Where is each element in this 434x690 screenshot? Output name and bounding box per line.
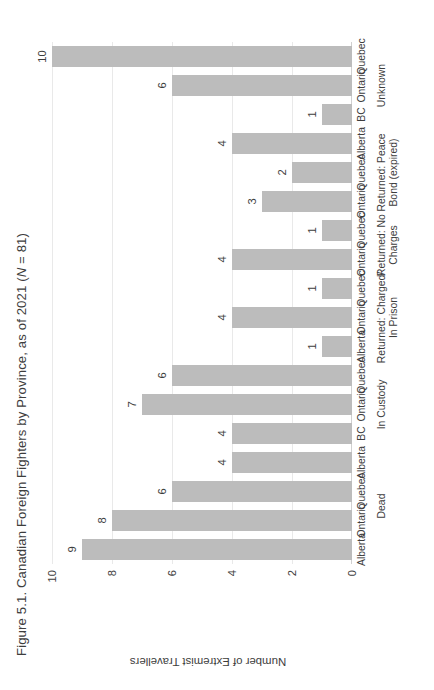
bar-slot: 8 [52, 506, 352, 535]
bar-slot: 1 [52, 274, 352, 303]
figure-title-part-2: = 81) [14, 233, 29, 268]
bar-slot: 1 [52, 216, 352, 245]
group-label-line: Dead [376, 440, 388, 572]
bar-value-label: 1 [306, 227, 318, 233]
figure-rotation-stage: Figure 5.1. Canadian Foreign Fighters by… [0, 0, 434, 690]
bar-value-label: 1 [306, 285, 318, 291]
y-axis-ticks: 0246810 [52, 564, 352, 598]
bar[interactable] [172, 365, 352, 386]
bar-value-label: 8 [96, 517, 108, 523]
bar-slot: 4 [52, 245, 352, 274]
bar[interactable] [262, 191, 352, 212]
bar-slot: 9 [52, 535, 352, 564]
bar-value-label: 6 [156, 372, 168, 378]
y-tick-label: 0 [346, 570, 358, 576]
bar[interactable] [232, 452, 352, 473]
bar-value-label: 1 [306, 343, 318, 349]
figure-title-part-1: Figure 5.1. Canadian Foreign Fighters by… [14, 277, 29, 656]
category-label: Alberta [356, 533, 367, 566]
bar-value-label: 3 [246, 198, 258, 204]
plot-area: Number of Extremist Travellers 0246810 9… [52, 42, 352, 598]
bar[interactable] [292, 162, 352, 183]
bar[interactable] [172, 75, 352, 96]
bar-value-label: 4 [216, 314, 228, 320]
bar[interactable] [82, 539, 352, 560]
figure-title: Figure 5.1. Canadian Foreign Fighters by… [14, 233, 29, 656]
group-tick-labels: DeadIn CustodyReturned: Charged/In Priso… [376, 42, 420, 564]
bar-slot: 6 [52, 477, 352, 506]
bar[interactable] [322, 104, 352, 125]
bar-value-label: 9 [66, 546, 78, 552]
figure-title-italic-n: N [14, 268, 29, 278]
y-tick-label: 6 [166, 570, 178, 576]
bar[interactable] [232, 133, 352, 154]
bar[interactable] [322, 220, 352, 241]
bar-slot: 3 [52, 187, 352, 216]
y-tick-label: 10 [46, 570, 58, 582]
bar-value-label: 4 [216, 459, 228, 465]
bar-value-label: 2 [276, 169, 288, 175]
bar-value-label: 6 [156, 82, 168, 88]
category-label: BC [356, 426, 367, 440]
bar-slot: 4 [52, 448, 352, 477]
y-tick-label: 8 [106, 570, 118, 576]
bar-value-label: 6 [156, 488, 168, 494]
bar-slot: 2 [52, 158, 352, 187]
bar-value-label: 4 [216, 140, 228, 146]
bar-slot: 1 [52, 332, 352, 361]
bar[interactable] [322, 278, 352, 299]
y-axis-label: Number of Extremist Travellers [88, 656, 328, 668]
group-label: Dead [376, 440, 388, 572]
category-label: Alberta [356, 446, 367, 479]
bar[interactable] [232, 307, 352, 328]
bar-slot: 4 [52, 129, 352, 158]
bar-slot: 4 [52, 303, 352, 332]
bar[interactable] [172, 481, 352, 502]
bar-chart-figure: Figure 5.1. Canadian Foreign Fighters by… [0, 0, 434, 690]
bar-value-label: 4 [216, 430, 228, 436]
bar[interactable] [112, 510, 352, 531]
bar[interactable] [52, 46, 352, 67]
bar-slot: 7 [52, 390, 352, 419]
y-tick-label: 4 [226, 570, 238, 576]
bar[interactable] [232, 249, 352, 270]
bar-slot: 1 [52, 100, 352, 129]
group-label: Unknown [376, 34, 388, 137]
category-tick-labels: AlbertaOntarioQuebecAlbertaBCOntarioQueb… [356, 42, 372, 564]
bar[interactable] [142, 394, 352, 415]
bar-value-label: 4 [216, 256, 228, 262]
category-label: Alberta [356, 330, 367, 363]
y-tick-label: 2 [286, 570, 298, 576]
category-label: BC [356, 107, 367, 121]
bar-value-label: 10 [36, 50, 48, 62]
category-label: Alberta [356, 127, 367, 160]
bar-slot: 10 [52, 42, 352, 71]
category-label: Quebec [356, 38, 367, 74]
bar-slot: 6 [52, 361, 352, 390]
bar-value-label: 1 [306, 111, 318, 117]
bar-series: 9864476141413241610 [52, 42, 352, 564]
bar[interactable] [232, 423, 352, 444]
group-label-line: Bond (expired) [388, 121, 400, 224]
group-label-line: Unknown [376, 34, 388, 137]
bar-slot: 4 [52, 419, 352, 448]
bar-slot: 6 [52, 71, 352, 100]
bar[interactable] [322, 336, 352, 357]
bar-value-label: 7 [126, 401, 138, 407]
